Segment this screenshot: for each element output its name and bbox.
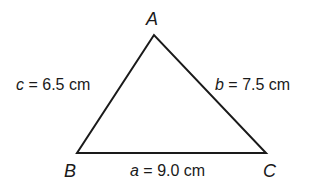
side-variable-a: a <box>130 162 139 179</box>
side-label-c: c = 6.5 cm <box>16 76 90 94</box>
vertex-label-c: C <box>263 162 276 180</box>
vertex-label-b: B <box>64 162 76 180</box>
side-value-b: = 7.5 cm <box>228 76 290 93</box>
side-variable-b: b <box>215 76 224 93</box>
side-label-b: b = 7.5 cm <box>215 76 290 94</box>
side-value-a: = 9.0 cm <box>143 162 205 179</box>
side-variable-c: c <box>16 76 24 93</box>
triangle-abc <box>77 35 266 153</box>
vertex-label-a: A <box>146 10 158 28</box>
side-value-c: = 6.5 cm <box>28 76 90 93</box>
side-label-a: a = 9.0 cm <box>130 162 205 180</box>
